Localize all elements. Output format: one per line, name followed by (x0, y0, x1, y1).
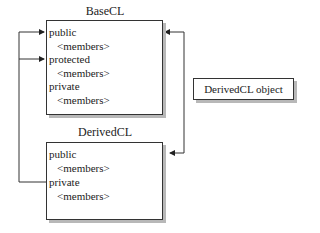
base-private-members: <members> (57, 94, 110, 107)
derived-public-members: <members> (57, 162, 110, 175)
base-private-label: private (49, 80, 80, 93)
derived-class-box: public <members> private <members> (46, 142, 163, 220)
derived-public-label: public (49, 148, 77, 161)
derived-private-members: <members> (57, 190, 110, 203)
base-public-label: public (49, 26, 77, 39)
base-protected-members: <members> (57, 67, 110, 80)
base-protected-label: protected (49, 53, 90, 66)
derived-private-label: private (49, 176, 80, 189)
base-class-title: BaseCL (45, 4, 165, 19)
base-public-members: <members> (57, 40, 110, 53)
derived-object-box: DerivedCL object (193, 78, 294, 100)
derived-class-title: DerivedCL (45, 125, 165, 140)
base-class-box: public <members> protected <members> pri… (46, 20, 163, 115)
